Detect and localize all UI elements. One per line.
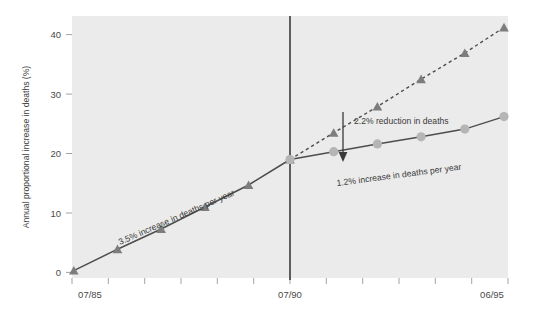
y-axis-title: Annual proportional increase in deaths (… bbox=[21, 66, 31, 229]
y-axis-ticks bbox=[66, 35, 72, 273]
x-tick-label-start: 07/85 bbox=[78, 289, 102, 300]
x-tick-label-end: 06/95 bbox=[480, 289, 504, 300]
x-tick-label-intervention: 07/90 bbox=[278, 289, 302, 300]
y-tick-label-40: 40 bbox=[50, 29, 61, 40]
reduction-label: 2.2% reduction in deaths bbox=[354, 116, 449, 126]
annual-death-increase-line-chart: 0 10 20 30 40 Annual proportional increa… bbox=[0, 0, 537, 323]
y-tick-label-20: 20 bbox=[50, 148, 61, 159]
y-tick-label-0: 0 bbox=[56, 267, 61, 278]
y-tick-label-10: 10 bbox=[50, 208, 61, 219]
y-tick-label-30: 30 bbox=[50, 89, 61, 100]
chart-figure: 0 10 20 30 40 Annual proportional increa… bbox=[0, 0, 537, 323]
